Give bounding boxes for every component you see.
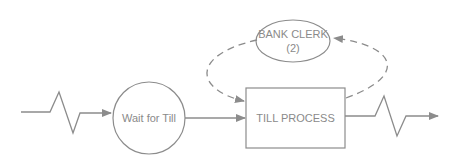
- till-process-label: TILL PROCESS: [246, 111, 345, 125]
- bank-clerk-label: BANK CLERK: [256, 27, 330, 41]
- arrival-arrow: [21, 92, 111, 133]
- diagram-canvas: [0, 0, 458, 163]
- bank-clerk-count: (2): [256, 41, 330, 55]
- wait-for-till-label: Wait for Till: [113, 111, 185, 125]
- exit-arrow: [345, 96, 438, 136]
